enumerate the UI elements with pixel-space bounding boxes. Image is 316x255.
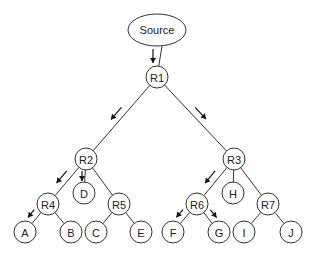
node-label: R4	[41, 199, 55, 211]
node-label: B	[67, 227, 74, 239]
router-node-r4: R4	[37, 193, 59, 215]
node-label: H	[229, 188, 237, 200]
router-node-r2: R2	[75, 148, 97, 170]
edge-r1-r3	[165, 85, 227, 151]
receiver-node-e: E	[130, 221, 152, 243]
node-label: A	[21, 227, 29, 239]
edge-r6-g	[204, 213, 212, 224]
edge-r6-f	[180, 212, 190, 223]
edge-source-r1	[159, 46, 162, 66]
node-label: R3	[227, 154, 241, 166]
node-label: R7	[261, 199, 275, 211]
tree-nodes: SourceR1R2R3DHR4R5R6R7ABCEFGIJ	[14, 14, 302, 243]
edge-r4-a	[32, 212, 41, 223]
node-label: G	[215, 227, 224, 239]
router-node-r5: R5	[108, 193, 130, 215]
receiver-node-i: I	[233, 221, 255, 243]
edge-r5-c	[103, 212, 112, 223]
flow-arrow-r6-g-icon	[210, 210, 216, 218]
flow-arrow-r4-a-icon	[28, 210, 34, 218]
flow-arrow-r2-r4-icon	[56, 171, 66, 183]
edge-r1-r2	[93, 85, 150, 150]
node-label: R1	[150, 72, 164, 84]
receiver-node-d: D	[73, 182, 95, 204]
receiver-node-a: A	[14, 221, 36, 243]
node-label: E	[137, 227, 144, 239]
flow-arrow-r1-r2-icon	[111, 107, 121, 119]
router-node-r6: R6	[186, 193, 208, 215]
edge-r7-i	[251, 212, 261, 223]
node-label: J	[288, 227, 294, 239]
multicast-tree-diagram: SourceR1R2R3DHR4R5R6R7ABCEFGIJ	[0, 0, 316, 255]
source-node: Source	[128, 14, 186, 46]
node-label: C	[92, 227, 100, 239]
flow-arrow-r3-r6-icon	[205, 171, 215, 183]
receiver-node-c: C	[85, 221, 107, 243]
flow-arrows	[28, 49, 217, 218]
node-label: F	[170, 227, 177, 239]
router-node-r1: R1	[146, 66, 168, 88]
receiver-node-h: H	[222, 182, 244, 204]
edge-r7-j	[275, 212, 284, 223]
flow-arrow-r1-r3-icon	[195, 107, 206, 119]
router-node-r7: R7	[257, 193, 279, 215]
receiver-node-g: G	[208, 221, 230, 243]
receiver-node-f: F	[162, 221, 184, 243]
edge-r2-r5	[93, 168, 113, 195]
flow-arrow-r6-f-icon	[176, 210, 183, 218]
edge-r5-e	[126, 213, 134, 224]
router-node-r3: R3	[223, 148, 245, 170]
flow-arrow-r2-d-icon	[79, 171, 85, 181]
receiver-node-b: B	[60, 221, 82, 243]
node-label: R6	[190, 199, 204, 211]
receiver-node-j: J	[280, 221, 302, 243]
source-label: Source	[140, 24, 175, 36]
node-label: R2	[79, 154, 93, 166]
node-label: R5	[112, 199, 126, 211]
node-label: I	[242, 227, 245, 239]
flow-arrow-source-r1-icon	[150, 49, 156, 63]
node-label: D	[80, 188, 88, 200]
edge-r4-b	[55, 212, 64, 223]
